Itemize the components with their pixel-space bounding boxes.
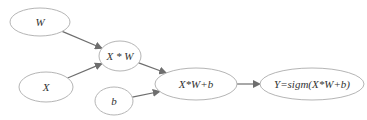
node-label: X*W+b — [178, 78, 214, 90]
nodes-layer: WXX * WbX*W+bY=sigm(X*W+b) — [10, 8, 364, 115]
arrow-icon — [68, 64, 102, 78]
edge-xw-to-xwb — [139, 63, 167, 73]
node-xw: X * W — [99, 41, 141, 71]
edge-b-to-xwb — [132, 92, 160, 98]
node-y: Y=sigm(X*W+b) — [260, 68, 364, 100]
node-b: b — [95, 87, 133, 115]
node-x: X — [19, 72, 73, 102]
node-xwb: X*W+b — [155, 68, 237, 100]
arrow-icon — [132, 92, 160, 98]
node-label: Y=sigm(X*W+b) — [274, 78, 350, 91]
diagram-canvas: WXX * WbX*W+bY=sigm(X*W+b) — [0, 0, 367, 120]
edge-w-to-xw — [62, 31, 102, 48]
arrow-icon — [139, 63, 167, 73]
node-label: W — [35, 16, 45, 28]
arrow-icon — [62, 31, 102, 48]
node-label: b — [111, 95, 117, 107]
node-label: X — [42, 81, 51, 93]
node-label: X * W — [106, 50, 135, 62]
node-w: W — [10, 8, 70, 36]
edge-x-to-xw — [68, 64, 102, 78]
